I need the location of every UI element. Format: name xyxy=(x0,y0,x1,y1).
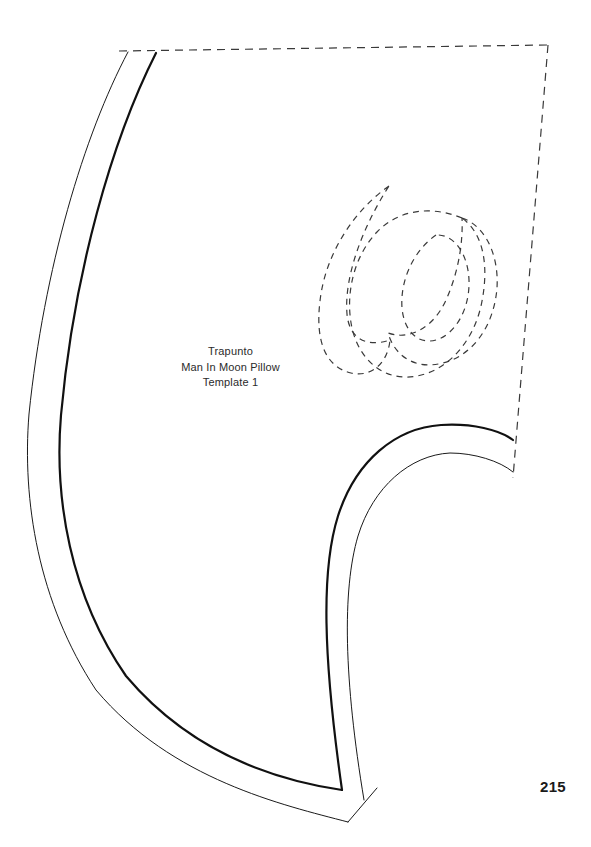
quilt-template-drawing xyxy=(0,0,591,847)
guide-top-dashed-line xyxy=(119,45,548,51)
inner-right-arc-thin xyxy=(347,453,513,800)
template-page: Trapunto Man In Moon Pillow Template 1 2… xyxy=(0,0,591,847)
outer-left-arc-thin xyxy=(27,52,348,822)
caption-line-3: Template 1 xyxy=(123,375,338,391)
caption-line-2: Man In Moon Pillow xyxy=(123,360,338,376)
guide-right-dashed-line xyxy=(513,45,548,478)
caption-line-1: Trapunto xyxy=(123,344,338,360)
motif-spiral-eye xyxy=(402,235,469,341)
inner-left-arc-thick xyxy=(59,53,342,790)
page-number: 215 xyxy=(540,778,566,795)
motif-spiral-inner xyxy=(388,218,497,365)
template-caption: Trapunto Man In Moon Pillow Template 1 xyxy=(123,344,338,391)
